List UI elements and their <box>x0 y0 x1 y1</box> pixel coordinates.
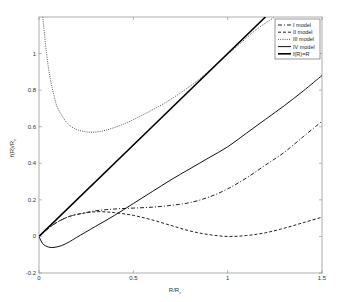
y-tick-label: 0.6 <box>28 124 37 130</box>
legend: I modelII modelIII modelIV modelf(R)=R <box>275 19 320 59</box>
y-tick-label: 0.4 <box>28 160 37 166</box>
legend-label: f(R)=R <box>293 51 309 57</box>
x-axis-label: R/Rc <box>169 287 181 295</box>
line-chart: 00.511.5-0.200.20.40.60.81 I modelII mod… <box>0 0 340 302</box>
y-tick-label: -0.2 <box>26 270 37 276</box>
y-axis-label: f(R)/Rc <box>9 139 17 157</box>
x-tick-label: 1 <box>226 275 230 281</box>
y-tick-label: 1 <box>33 51 37 57</box>
legend-label: IV model <box>293 44 315 50</box>
x-tick-label: 0 <box>37 275 41 281</box>
x-tick-label: 0.5 <box>129 275 138 281</box>
x-tick-label: 1.5 <box>318 275 327 281</box>
legend-label: II model <box>293 29 313 35</box>
legend-label: I model <box>293 22 311 28</box>
y-tick-label: 0.2 <box>28 197 37 203</box>
y-tick-label: 0 <box>33 233 37 239</box>
legend-label: III model <box>293 36 314 42</box>
y-tick-label: 0.8 <box>28 87 37 93</box>
